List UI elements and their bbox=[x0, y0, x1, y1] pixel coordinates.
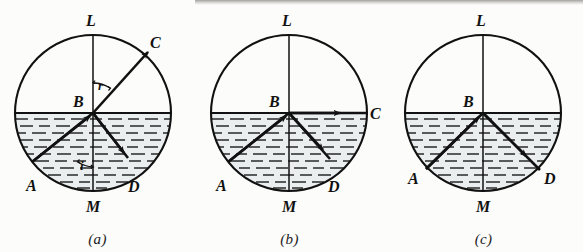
caption-a: (a) bbox=[0, 231, 195, 248]
label-A-b: A bbox=[215, 177, 227, 194]
label-A-c: A bbox=[407, 170, 419, 187]
caption-b: (b) bbox=[192, 231, 387, 248]
panel-c: L B M A D (c) bbox=[386, 0, 581, 252]
label-L-b: L bbox=[281, 12, 292, 29]
label-D-a: D bbox=[127, 178, 140, 195]
label-A-a: A bbox=[25, 177, 37, 194]
label-M-b: M bbox=[281, 198, 297, 215]
label-L-a: L bbox=[85, 12, 96, 29]
figure-canvas: L B M A D C r i (a) bbox=[0, 0, 583, 252]
diagram-c: L B M A D bbox=[386, 0, 581, 230]
label-C-a: C bbox=[150, 34, 161, 51]
panel-a: L B M A D C r i (a) bbox=[0, 0, 195, 252]
label-M-a: M bbox=[85, 198, 101, 215]
label-B-a: B bbox=[72, 93, 84, 110]
label-M-c: M bbox=[475, 198, 491, 215]
label-r-a: r bbox=[98, 78, 104, 93]
label-i-a: i bbox=[80, 158, 84, 173]
water-region-b bbox=[206, 113, 376, 195]
label-C-b: C bbox=[370, 105, 381, 122]
label-B-c: B bbox=[462, 93, 474, 110]
diagram-b: L B M A D C bbox=[192, 0, 387, 230]
label-D-b: D bbox=[327, 178, 340, 195]
panel-b: L B M A D C (b) bbox=[192, 0, 387, 252]
label-D-c: D bbox=[543, 170, 556, 187]
caption-c: (c) bbox=[386, 231, 581, 248]
label-L-c: L bbox=[475, 12, 486, 29]
diagram-a: L B M A D C r i bbox=[0, 0, 195, 230]
label-B-b: B bbox=[268, 93, 280, 110]
